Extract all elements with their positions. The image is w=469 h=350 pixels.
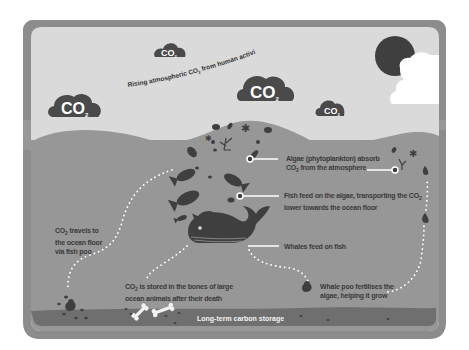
bones-label: CO2 is stored in the bones of large ocea… [125, 282, 233, 303]
fish-label-line2: lower towards the ocean floor [284, 203, 422, 212]
whale-carbon-diagram: CO2 CO2 CO2 CO2 Rising atmospheric CO2 f… [0, 0, 469, 350]
svg-text:CO2: CO2 [61, 100, 89, 118]
algae-label-line1: Algae (phytoplankton) absorb [286, 154, 380, 163]
fish-poo-label-line1: CO2 travels to [55, 226, 102, 238]
svg-text:✱: ✱ [205, 134, 212, 143]
whales-label: Whales feed on fish [284, 242, 346, 251]
bones-label-line1: CO2 is stored in the bones of large [125, 282, 233, 294]
long-term-storage-label: Long-term carbon storage [197, 315, 284, 322]
svg-text:✱: ✱ [241, 122, 250, 134]
algae-label: Algae (phytoplankton) absorb CO2 from th… [286, 154, 380, 175]
whale-poo-label: Whale poo fertilises the algae, helping … [320, 282, 394, 300]
whale-poo-label-line1: Whale poo fertilises the [320, 282, 394, 291]
fish-poo-label-line2: the ocean floor [55, 238, 102, 247]
whales-label-line1: Whales feed on fish [284, 242, 346, 251]
fish-label: Fish feed on the algae, transporting the… [284, 191, 422, 212]
svg-text:✱: ✱ [409, 148, 417, 159]
fish-poo-label-line3: via fish poo [55, 247, 102, 256]
svg-text:CO2: CO2 [250, 83, 280, 102]
fish-poo-label: CO2 travels to the ocean floor via fish … [55, 226, 102, 256]
algae-label-line2: CO2 from the atmosphere [286, 163, 380, 175]
fish-label-line1: Fish feed on the algae, transporting the… [284, 191, 422, 203]
bones-label-line2: ocean animals after their death [125, 294, 233, 303]
whale-poo-label-line2: algae, helping it grow [320, 291, 394, 300]
